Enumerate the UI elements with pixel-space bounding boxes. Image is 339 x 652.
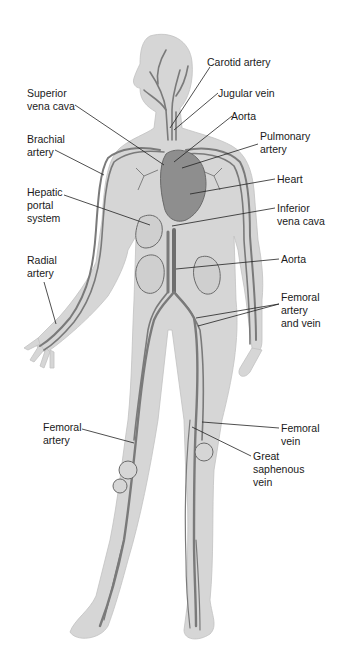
label-radial-artery: Radial artery	[27, 254, 57, 280]
label-pulmonary-artery: Pulmonary artery	[260, 130, 310, 156]
label-hepatic-portal-system: Hepatic portal system	[27, 186, 63, 225]
label-aorta-upper: Aorta	[231, 110, 256, 123]
label-femoral-artery-and-vein: Femoral artery and vein	[281, 291, 321, 330]
label-jugular-vein: Jugular vein	[218, 87, 275, 100]
label-brachial-artery: Brachial artery	[27, 133, 65, 159]
label-heart: Heart	[277, 173, 303, 186]
label-great-saphenous-vein: Great saphenous vein	[253, 450, 304, 489]
label-superior-vena-cava: Superior vena cava	[27, 87, 75, 113]
label-aorta-lower: Aorta	[281, 253, 306, 266]
label-carotid-artery: Carotid artery	[207, 56, 271, 69]
label-femoral-artery: Femoral artery	[43, 421, 82, 447]
label-femoral-vein: Femoral vein	[281, 422, 320, 448]
label-inferior-vena-cava: Inferior vena cava	[277, 202, 325, 228]
